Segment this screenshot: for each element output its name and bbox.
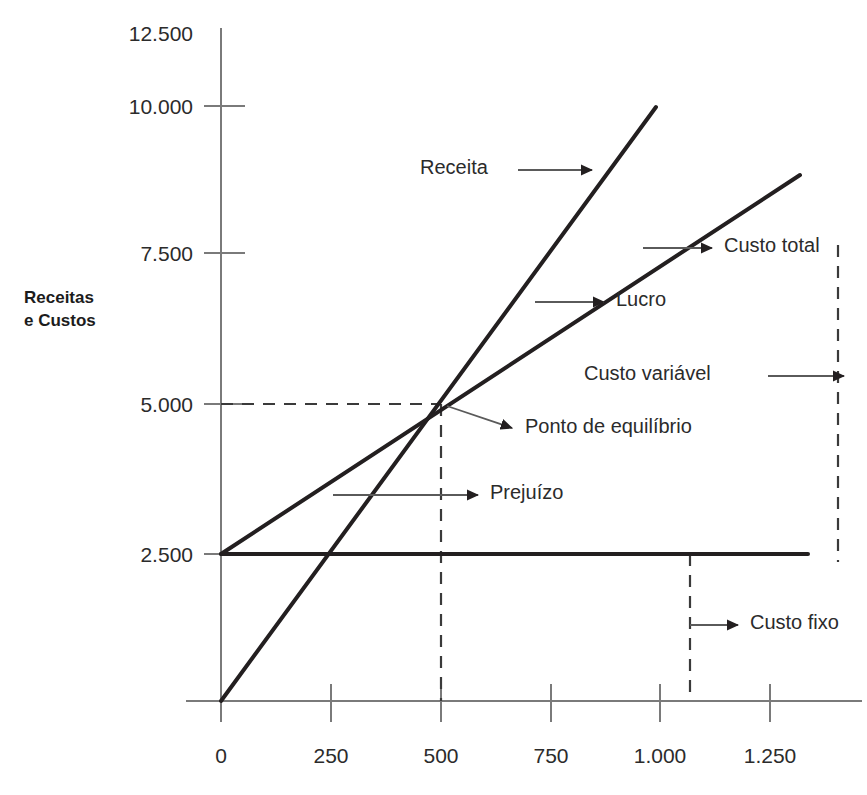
x-tick-label-250: 250 [296,744,366,768]
x-tick-label-500: 500 [406,744,476,768]
annotation-custo-fixo: Custo fixo [750,611,839,634]
y-tick-label-10000: 10.000 [108,95,193,119]
ponto-de-equilibrio-arrow [447,406,512,428]
x-tick-label-750: 750 [516,744,586,768]
x-axis-ticks [221,684,770,722]
annotation-custo-variavel: Custo variável [584,362,711,385]
x-tick-label-1000: 1.000 [615,744,705,768]
annotation-prejuizo: Prejuízo [490,481,563,504]
y-tick-label-7500: 7.500 [118,242,193,266]
x-tick-label-1250: 1.250 [725,744,815,768]
y-tick-label-5000: 5.000 [118,393,193,417]
y-tick-label-12500: 12.500 [108,22,193,46]
guide-lines [221,245,838,701]
y-axis-title-line-2: e Custos [24,310,96,333]
annotation-receita: Receita [420,156,488,179]
y-axis-title: Receitas e Custos [24,287,96,333]
annotation-lucro: Lucro [616,288,666,311]
annotation-ponto-de-equilibrio: Ponto de equilíbrio [525,415,692,438]
y-axis-title-line-1: Receitas [24,287,96,310]
chart-canvas: 12.500 10.000 7.500 5.000 2.500 0 250 50… [0,0,867,795]
y-tick-label-2500: 2.500 [118,543,193,567]
y-axis-ticks [204,106,245,554]
annotation-custo-total: Custo total [724,234,820,257]
x-tick-label-0: 0 [191,744,251,768]
